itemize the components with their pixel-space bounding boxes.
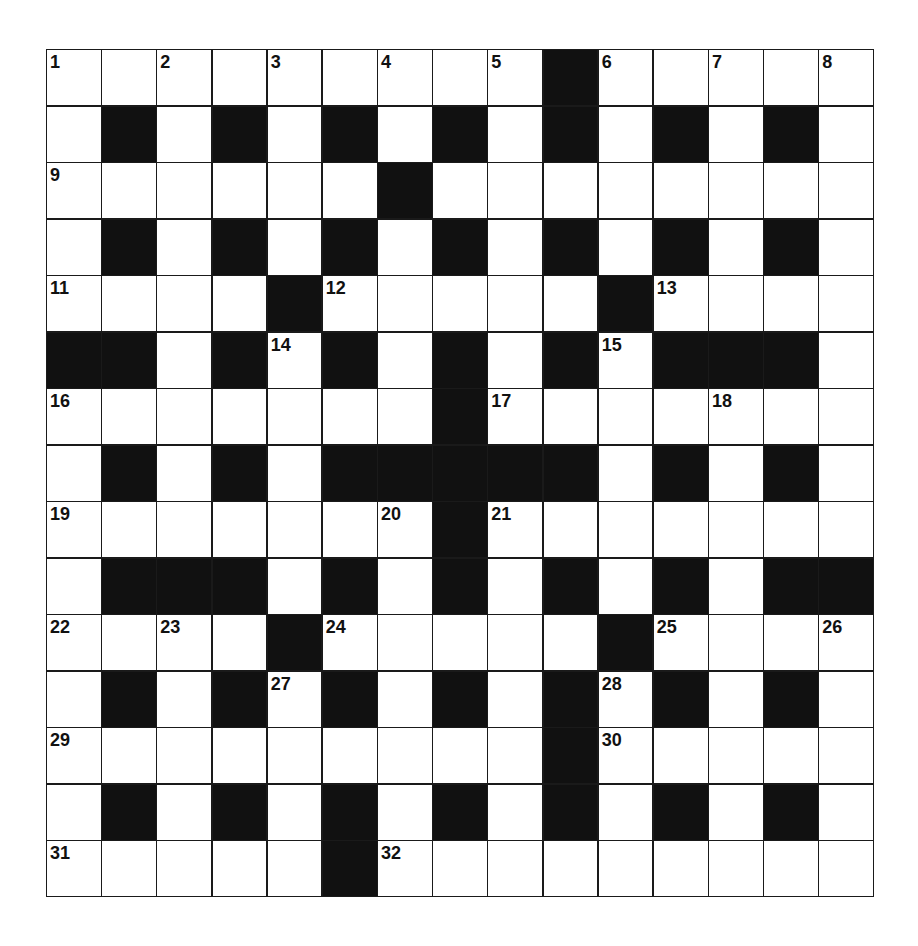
answer-cell[interactable] <box>378 107 432 162</box>
answer-cell[interactable] <box>544 163 598 218</box>
answer-cell[interactable] <box>157 672 211 727</box>
answer-cell[interactable] <box>378 389 432 444</box>
answer-cell[interactable]: 17 <box>488 389 542 444</box>
answer-cell[interactable] <box>102 841 156 896</box>
answer-cell[interactable] <box>378 220 432 275</box>
answer-cell[interactable] <box>709 502 763 557</box>
answer-cell[interactable] <box>654 728 708 783</box>
answer-cell[interactable] <box>819 389 873 444</box>
answer-cell[interactable] <box>764 841 818 896</box>
answer-cell[interactable] <box>654 163 708 218</box>
answer-cell[interactable]: 3 <box>268 50 322 105</box>
answer-cell[interactable] <box>102 163 156 218</box>
answer-cell[interactable]: 26 <box>819 615 873 670</box>
answer-cell[interactable] <box>102 389 156 444</box>
answer-cell[interactable] <box>268 220 322 275</box>
answer-cell[interactable] <box>709 615 763 670</box>
answer-cell[interactable] <box>268 107 322 162</box>
answer-cell[interactable] <box>157 276 211 331</box>
answer-cell[interactable] <box>764 502 818 557</box>
answer-cell[interactable] <box>213 50 267 105</box>
answer-cell[interactable]: 21 <box>488 502 542 557</box>
answer-cell[interactable] <box>323 163 377 218</box>
answer-cell[interactable] <box>157 841 211 896</box>
answer-cell[interactable] <box>599 389 653 444</box>
answer-cell[interactable] <box>433 163 487 218</box>
answer-cell[interactable] <box>47 672 101 727</box>
answer-cell[interactable] <box>654 841 708 896</box>
answer-cell[interactable] <box>213 389 267 444</box>
answer-cell[interactable] <box>378 785 432 840</box>
answer-cell[interactable] <box>709 107 763 162</box>
answer-cell[interactable] <box>378 276 432 331</box>
answer-cell[interactable] <box>764 163 818 218</box>
answer-cell[interactable] <box>764 728 818 783</box>
answer-cell[interactable] <box>488 276 542 331</box>
answer-cell[interactable]: 18 <box>709 389 763 444</box>
answer-cell[interactable] <box>488 785 542 840</box>
answer-cell[interactable]: 23 <box>157 615 211 670</box>
answer-cell[interactable]: 15 <box>599 333 653 388</box>
answer-cell[interactable] <box>268 785 322 840</box>
answer-cell[interactable]: 13 <box>654 276 708 331</box>
answer-cell[interactable] <box>433 50 487 105</box>
answer-cell[interactable] <box>157 728 211 783</box>
answer-cell[interactable] <box>709 785 763 840</box>
answer-cell[interactable]: 8 <box>819 50 873 105</box>
answer-cell[interactable] <box>213 502 267 557</box>
answer-cell[interactable] <box>709 163 763 218</box>
answer-cell[interactable] <box>102 276 156 331</box>
answer-cell[interactable] <box>213 163 267 218</box>
answer-cell[interactable] <box>47 446 101 501</box>
answer-cell[interactable] <box>764 276 818 331</box>
answer-cell[interactable] <box>102 728 156 783</box>
answer-cell[interactable] <box>268 559 322 614</box>
answer-cell[interactable] <box>157 333 211 388</box>
answer-cell[interactable] <box>488 728 542 783</box>
answer-cell[interactable] <box>764 615 818 670</box>
answer-cell[interactable] <box>544 389 598 444</box>
answer-cell[interactable] <box>268 446 322 501</box>
answer-cell[interactable]: 25 <box>654 615 708 670</box>
answer-cell[interactable] <box>268 389 322 444</box>
answer-cell[interactable] <box>157 785 211 840</box>
answer-cell[interactable] <box>488 107 542 162</box>
answer-cell[interactable]: 6 <box>599 50 653 105</box>
answer-cell[interactable] <box>213 276 267 331</box>
answer-cell[interactable] <box>819 841 873 896</box>
answer-cell[interactable] <box>709 559 763 614</box>
answer-cell[interactable] <box>213 728 267 783</box>
answer-cell[interactable] <box>488 163 542 218</box>
answer-cell[interactable] <box>268 728 322 783</box>
answer-cell[interactable] <box>599 220 653 275</box>
answer-cell[interactable] <box>599 446 653 501</box>
answer-cell[interactable]: 28 <box>599 672 653 727</box>
answer-cell[interactable] <box>544 276 598 331</box>
answer-cell[interactable] <box>819 333 873 388</box>
answer-cell[interactable] <box>213 841 267 896</box>
answer-cell[interactable] <box>654 50 708 105</box>
answer-cell[interactable] <box>268 502 322 557</box>
answer-cell[interactable] <box>433 276 487 331</box>
answer-cell[interactable] <box>268 163 322 218</box>
answer-cell[interactable]: 16 <box>47 389 101 444</box>
answer-cell[interactable] <box>709 728 763 783</box>
answer-cell[interactable] <box>599 502 653 557</box>
answer-cell[interactable]: 5 <box>488 50 542 105</box>
answer-cell[interactable]: 20 <box>378 502 432 557</box>
answer-cell[interactable] <box>433 728 487 783</box>
answer-cell[interactable] <box>47 107 101 162</box>
answer-cell[interactable] <box>819 502 873 557</box>
answer-cell[interactable] <box>102 502 156 557</box>
answer-cell[interactable] <box>323 502 377 557</box>
answer-cell[interactable]: 12 <box>323 276 377 331</box>
answer-cell[interactable] <box>102 615 156 670</box>
answer-cell[interactable] <box>599 841 653 896</box>
answer-cell[interactable] <box>764 389 818 444</box>
answer-cell[interactable] <box>323 50 377 105</box>
answer-cell[interactable] <box>213 615 267 670</box>
answer-cell[interactable] <box>544 502 598 557</box>
answer-cell[interactable] <box>323 728 377 783</box>
answer-cell[interactable] <box>378 333 432 388</box>
answer-cell[interactable] <box>654 389 708 444</box>
